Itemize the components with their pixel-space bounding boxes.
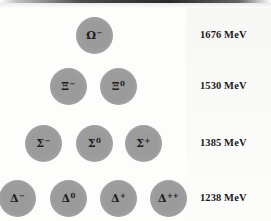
particle-sigma-plus: Σ+ <box>125 125 162 162</box>
energy-label-row-3: 1238 MeV <box>200 192 247 203</box>
particle-charge-superscript: − <box>97 29 103 36</box>
particle-delta-plus-plus: Δ++ <box>150 180 187 217</box>
particle-symbol: Ω <box>86 30 96 41</box>
particle-omega-minus: Ω− <box>76 17 113 54</box>
particle-symbol: Σ <box>36 138 44 149</box>
particle-charge-superscript: − <box>70 80 76 87</box>
particle-charge-superscript: + <box>120 192 126 199</box>
particle-charge-superscript: + <box>145 137 151 144</box>
particle-symbol: Δ <box>111 193 120 204</box>
particle-delta-plus: Δ+ <box>100 180 137 217</box>
particle-charge-superscript: − <box>45 137 51 144</box>
baryon-decuplet-figure: Ω−Ξ−Ξ0Σ−Σ0Σ+Δ−Δ0Δ+Δ++ 1676 MeV1530 MeV13… <box>0 0 271 221</box>
particle-symbol: Δ <box>158 193 167 204</box>
particle-charge-superscript: 0 <box>70 192 75 199</box>
particle-sigma-minus: Σ− <box>25 125 62 162</box>
energy-label-row-2: 1385 MeV <box>200 137 247 148</box>
particle-symbol: Σ <box>136 138 144 149</box>
particle-xi-zero: Ξ0 <box>100 68 137 105</box>
particle-charge-superscript: 0 <box>96 137 101 144</box>
particle-symbol: Ξ <box>112 81 120 92</box>
particle-symbol: Δ <box>61 193 70 204</box>
particle-charge-superscript: − <box>19 192 25 199</box>
energy-label-row-1: 1530 MeV <box>200 80 247 91</box>
particle-charge-superscript: ++ <box>167 192 178 199</box>
particle-symbol: Σ <box>88 138 96 149</box>
particle-delta-minus: Δ− <box>0 180 36 217</box>
particle-symbol: Δ <box>10 193 19 204</box>
particle-charge-superscript: 0 <box>120 80 125 87</box>
particle-xi-minus: Ξ− <box>50 68 87 105</box>
particle-delta-zero: Δ0 <box>50 180 87 217</box>
particle-sigma-zero: Σ0 <box>76 125 113 162</box>
particle-symbol: Ξ <box>61 81 69 92</box>
energy-label-row-0: 1676 MeV <box>200 29 247 40</box>
